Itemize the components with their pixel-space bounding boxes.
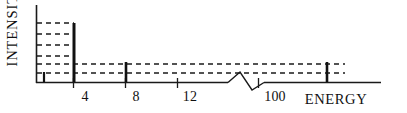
x-axis-title: ENERGY bbox=[305, 91, 367, 107]
x-tick-label-12: 12 bbox=[183, 89, 197, 104]
x-tick-label-4: 4 bbox=[81, 89, 88, 104]
x-tick-label-100: 100 bbox=[264, 89, 286, 104]
gridlines-full-width bbox=[37, 64, 345, 73]
gridlines-left-block bbox=[37, 23, 74, 56]
spectrum-figure: INTENSITY bbox=[0, 0, 407, 113]
x-tick-label-8: 8 bbox=[132, 89, 139, 104]
plot-area: 4 8 12 100 ENERGY bbox=[0, 0, 407, 113]
